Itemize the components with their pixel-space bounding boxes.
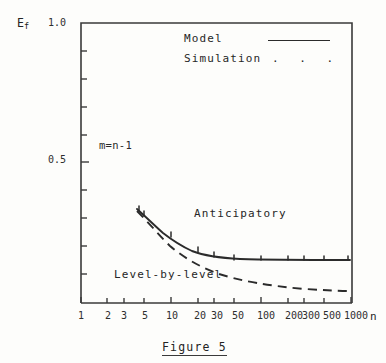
figure-caption: Figure 5 — [162, 341, 227, 356]
series-simulation-markers — [139, 206, 348, 260]
series-level-by-level-line — [137, 211, 350, 291]
plot-canvas — [0, 0, 386, 363]
x-axis-ticks — [81, 297, 351, 303]
plot-frame — [81, 23, 352, 303]
figure-5-chart: Ef 1.0 0.5 m=n-1 Model Simulation . . . … — [0, 0, 386, 363]
y-axis-ticks — [81, 51, 89, 274]
series-anticipatory-line — [137, 209, 350, 260]
